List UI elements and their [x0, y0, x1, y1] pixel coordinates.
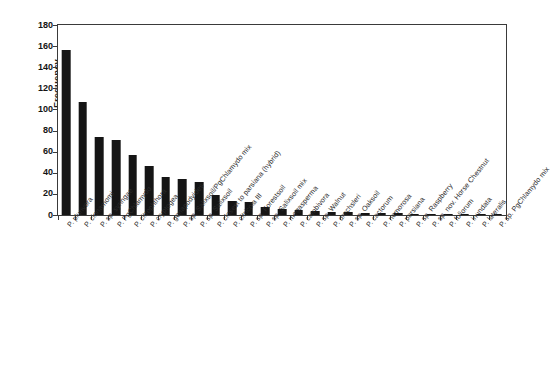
- bar: [95, 137, 104, 215]
- y-axis-tick-label: 160: [27, 42, 53, 51]
- bar: [195, 182, 204, 215]
- y-axis-tick-label: 100: [27, 105, 53, 114]
- bar-slot: [158, 25, 175, 215]
- bar-slot: [440, 25, 457, 215]
- bar: [294, 210, 303, 215]
- x-axis-tick-mark: [124, 216, 125, 220]
- bar: [162, 177, 171, 215]
- bar: [477, 214, 486, 216]
- x-axis-tick-mark: [191, 216, 192, 220]
- x-axis-tick-mark: [207, 216, 208, 220]
- x-axis-tick-mark: [489, 216, 490, 220]
- bar: [493, 214, 502, 216]
- x-axis-tick-mark: [224, 216, 225, 220]
- bar-slot: [489, 25, 506, 215]
- bar: [460, 214, 469, 216]
- bar: [79, 102, 88, 215]
- x-axis-tick-mark: [373, 216, 374, 220]
- bar-series: [58, 25, 506, 215]
- bar-slot: [191, 25, 208, 215]
- bar-slot: [58, 25, 75, 215]
- x-axis-tick-mark: [357, 216, 358, 220]
- x-axis-tick-mark: [241, 216, 242, 220]
- x-axis-tick-mark: [340, 216, 341, 220]
- bar-slot: [307, 25, 324, 215]
- bar: [228, 201, 237, 215]
- bar: [427, 214, 436, 216]
- x-axis-tick-mark: [506, 216, 507, 220]
- bar-slot: [323, 25, 340, 215]
- bar: [261, 207, 270, 215]
- x-axis-tick-mark: [257, 216, 258, 220]
- y-axis-tick-label: 40: [27, 168, 53, 177]
- y-axis-tick-label: 180: [27, 21, 53, 30]
- x-axis-tick-mark: [440, 216, 441, 220]
- bar-slot: [357, 25, 374, 215]
- bar: [327, 212, 336, 215]
- x-axis-tick-mark: [274, 216, 275, 220]
- bar-slot: [290, 25, 307, 215]
- bar: [112, 140, 121, 215]
- bar-slot: [390, 25, 407, 215]
- bar: [361, 213, 370, 215]
- x-axis-tick-mark: [473, 216, 474, 220]
- y-axis-tick-label: 140: [27, 63, 53, 72]
- x-axis-tick-mark: [390, 216, 391, 220]
- x-axis-tick-mark: [406, 216, 407, 220]
- bar-slot: [423, 25, 440, 215]
- bar-slot: [274, 25, 291, 215]
- bar-slot: [141, 25, 158, 215]
- x-axis-tick-mark: [307, 216, 308, 220]
- y-axis-tick-label: 60: [27, 147, 53, 156]
- bar-slot: [108, 25, 125, 215]
- bar: [244, 202, 253, 215]
- x-axis-tick-mark: [323, 216, 324, 220]
- x-axis-tick-mark: [108, 216, 109, 220]
- y-axis-tick-label: 120: [27, 84, 53, 93]
- bar-slot: [456, 25, 473, 215]
- x-axis-tick-mark: [456, 216, 457, 220]
- bar-slot: [257, 25, 274, 215]
- bar: [145, 166, 154, 215]
- bar: [62, 50, 71, 215]
- x-axis-tick-mark: [141, 216, 142, 220]
- bar-slot: [174, 25, 191, 215]
- bar: [410, 214, 419, 216]
- bar: [178, 179, 187, 215]
- bar-slot: [207, 25, 224, 215]
- bar-slot: [124, 25, 141, 215]
- bar-slot: [224, 25, 241, 215]
- bar: [128, 155, 137, 215]
- bar: [444, 214, 453, 216]
- bar: [344, 212, 353, 215]
- bar-slot: [241, 25, 258, 215]
- x-axis-tick-mark: [75, 216, 76, 220]
- bar-slot: [373, 25, 390, 215]
- bar: [377, 213, 386, 215]
- x-axis-tick-mark: [158, 216, 159, 220]
- x-axis-tick-mark: [58, 216, 59, 220]
- bar: [394, 213, 403, 215]
- x-axis-tick-mark: [290, 216, 291, 220]
- bar: [278, 209, 287, 215]
- bar-slot: [473, 25, 490, 215]
- bar-slot: [406, 25, 423, 215]
- bar-slot: [91, 25, 108, 215]
- x-axis-tick-mark: [174, 216, 175, 220]
- bar-slot: [340, 25, 357, 215]
- y-axis-tick-label: 20: [27, 189, 53, 198]
- bar-slot: [75, 25, 92, 215]
- y-axis-tick-label: 80: [27, 126, 53, 135]
- y-axis-tick-label: 0: [27, 211, 53, 220]
- bar: [211, 195, 220, 215]
- x-axis-tick-mark: [423, 216, 424, 220]
- x-axis-tick-mark: [91, 216, 92, 220]
- bar: [311, 211, 320, 215]
